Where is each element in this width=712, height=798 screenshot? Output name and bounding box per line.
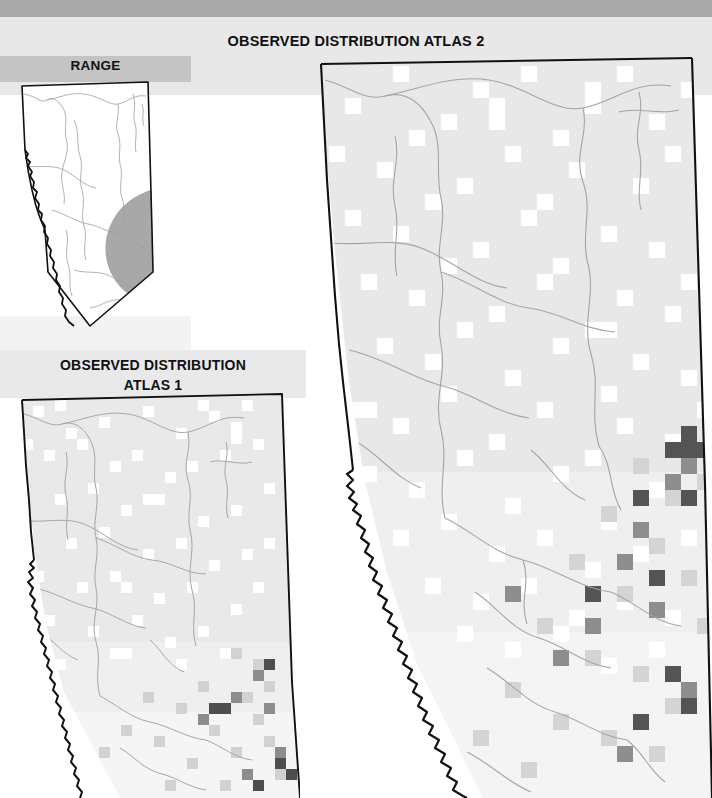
atlas1-title-line1: OBSERVED DISTRIBUTION (0, 357, 306, 373)
atlas1-map-svg (0, 392, 300, 798)
atlas2-map-svg (287, 52, 712, 798)
atlas2-title: OBSERVED DISTRIBUTION ATLAS 2 (0, 33, 712, 49)
range-title: RANGE (0, 58, 191, 73)
atlas2-grid (287, 52, 712, 798)
scan-band-top-dark (0, 0, 712, 17)
atlas1-map (0, 392, 300, 798)
range-map-svg (14, 80, 194, 330)
atlas1-grid (0, 392, 300, 798)
scanned-atlas-page: OBSERVED DISTRIBUTION ATLAS 2 RANGE OBSE… (0, 0, 712, 798)
range-map (14, 80, 194, 330)
atlas1-title-line2: ATLAS 1 (0, 377, 306, 393)
atlas2-map (287, 52, 712, 798)
